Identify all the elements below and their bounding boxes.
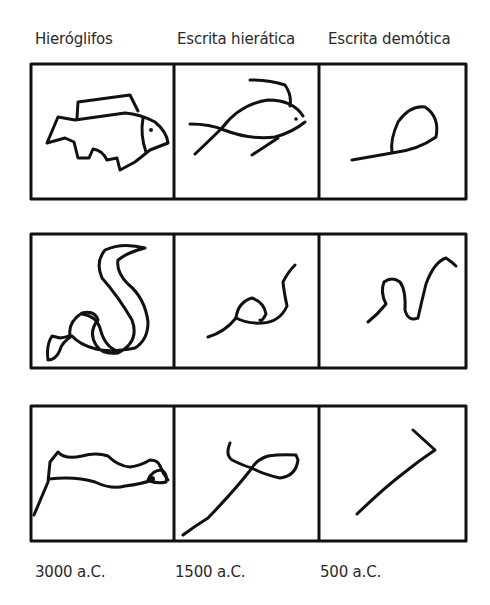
date-label-hieroglyphs: 3000 a.C. [35, 563, 105, 581]
hieratic-snake-icon [208, 265, 295, 337]
demotic-snake-icon [368, 258, 456, 322]
row-arm [31, 406, 466, 541]
demotic-fish-icon [352, 107, 437, 160]
row-fish [31, 64, 466, 199]
date-label-demotic: 500 a.C. [320, 563, 381, 581]
date-label-hieratic: 1500 a.C. [175, 563, 245, 581]
hieroglyph-arm-icon [34, 452, 168, 515]
hieratic-fish-icon [190, 80, 305, 155]
demotic-arm-icon [357, 430, 435, 514]
hieroglyph-snake-icon [48, 245, 149, 360]
row-frame [31, 64, 466, 199]
row-snake [31, 234, 466, 368]
script-evolution-diagram [0, 0, 490, 605]
hieratic-arm-icon [183, 443, 298, 535]
hieroglyph-fish-icon [47, 95, 168, 170]
